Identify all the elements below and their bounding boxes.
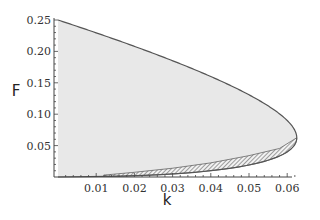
y-tick-label: 0.25 bbox=[27, 14, 52, 27]
y-tick-label: 0.20 bbox=[27, 45, 52, 58]
x-axis-label: k bbox=[163, 191, 172, 209]
y-axis-label: F bbox=[12, 82, 21, 100]
x-tick-label: 0.02 bbox=[122, 182, 147, 195]
phase-diagram-plot: 0.010.020.030.040.050.060.050.100.150.20… bbox=[0, 0, 320, 220]
x-tick-label: 0.04 bbox=[199, 182, 224, 195]
y-tick-label: 0.15 bbox=[27, 77, 52, 90]
x-tick-label: 0.01 bbox=[84, 182, 109, 195]
y-tick-label: 0.10 bbox=[27, 108, 52, 121]
y-tick-label: 0.05 bbox=[27, 140, 52, 153]
x-tick-label: 0.06 bbox=[275, 182, 300, 195]
x-tick-label: 0.05 bbox=[237, 182, 262, 195]
